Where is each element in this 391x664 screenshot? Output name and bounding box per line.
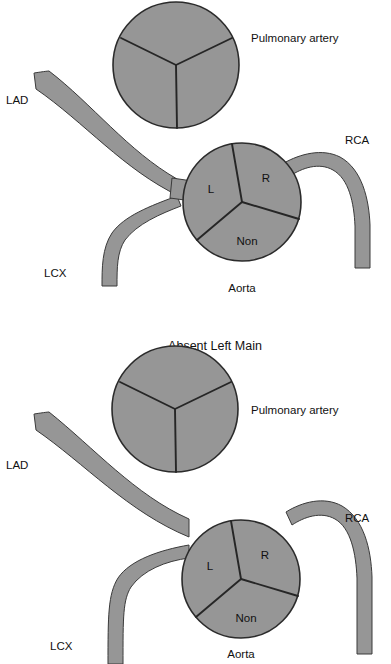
lcx-label: LCX — [50, 640, 73, 652]
pulmonary-cusp-divider-lower — [176, 65, 177, 128]
lcx-label: LCX — [44, 267, 67, 279]
rca-label: RCA — [345, 134, 370, 146]
panel-absent-left-main: Absent Left Main L R Non Pulmonary arter… — [0, 332, 391, 664]
aortic-cusp-label-right: R — [262, 172, 270, 184]
pulmonary-cusp-divider-lower — [175, 409, 176, 472]
pulmonary-artery-group-normal — [113, 2, 239, 128]
lcx-vessel-absent — [108, 545, 189, 664]
lcx-vessel-normal — [102, 196, 181, 286]
aortic-cusp-label-non: Non — [236, 235, 257, 247]
aorta-label: Aorta — [228, 282, 256, 294]
pulmonary-artery-label: Pulmonary artery — [251, 404, 339, 416]
aortic-cusp-label-left: L — [207, 560, 214, 572]
pulmonary-artery-group-absent — [112, 346, 238, 472]
panel-normal-left-main: L R Non Pulmonary artery LAD LCX RCA Aor… — [0, 0, 391, 332]
aortic-cusp-label-non: Non — [235, 612, 256, 624]
aorta-group-absent: L R Non — [182, 520, 300, 638]
rca-label: RCA — [345, 512, 370, 524]
aorta-group-normal: L R Non — [183, 143, 301, 261]
pulmonary-artery-label: Pulmonary artery — [251, 32, 339, 44]
coronary-origin-figure: L R Non Pulmonary artery LAD LCX RCA Aor… — [0, 0, 391, 664]
aortic-cusp-label-right: R — [261, 549, 269, 561]
aorta-label: Aorta — [227, 648, 255, 660]
aortic-cusp-label-left: L — [208, 183, 215, 195]
lad-label: LAD — [6, 459, 28, 471]
lad-label: LAD — [6, 94, 28, 106]
